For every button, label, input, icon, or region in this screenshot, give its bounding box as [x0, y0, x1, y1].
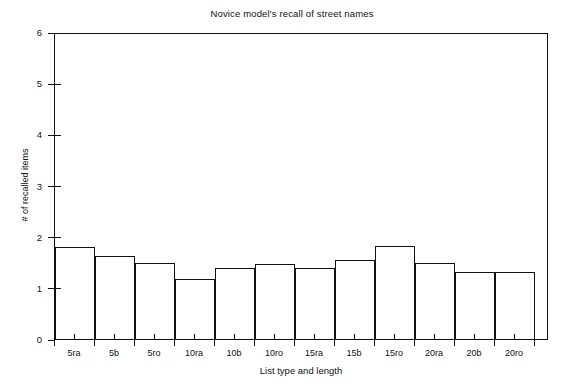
y-axis-tick-label: 0	[16, 334, 42, 345]
bar	[415, 263, 455, 339]
y-axis-tick-label: 5	[16, 78, 42, 89]
x-axis-tick-boundary	[414, 340, 415, 346]
x-axis-tick-boundary	[334, 340, 335, 346]
y-axis-tick-label: 3	[16, 181, 42, 192]
x-axis-tick-boundary	[54, 340, 55, 346]
x-axis-tick-boundary	[174, 340, 175, 346]
bar	[215, 268, 255, 339]
bar	[95, 256, 135, 339]
bars-layer	[55, 34, 547, 339]
bar	[255, 264, 295, 339]
x-axis-tick-boundary	[134, 340, 135, 346]
bar	[455, 272, 495, 339]
y-axis-tick-label: 2	[16, 232, 42, 243]
x-axis-tick-boundary	[374, 340, 375, 346]
x-axis-title: List type and length	[54, 365, 548, 376]
bar	[55, 247, 95, 339]
x-axis-tick-boundary	[294, 340, 295, 346]
chart-figure: Novice model's recall of street names # …	[0, 0, 584, 392]
chart-title: Novice model's recall of street names	[0, 8, 584, 19]
bar	[335, 260, 375, 339]
bar	[135, 263, 175, 339]
bar	[295, 268, 335, 339]
y-axis-tick-label: 6	[16, 27, 42, 38]
bar	[495, 272, 535, 339]
bar	[375, 246, 415, 339]
x-axis-tick-label: 20ro	[484, 348, 544, 358]
x-axis-tick-boundary	[254, 340, 255, 346]
bar	[175, 279, 215, 339]
x-axis-tick-boundary	[454, 340, 455, 346]
x-axis-tick-boundary	[214, 340, 215, 346]
x-axis-tick-boundary	[94, 340, 95, 346]
y-axis-tick-label: 1	[16, 283, 42, 294]
x-axis-tick-boundary	[534, 340, 535, 346]
y-axis-tick-label: 4	[16, 129, 42, 140]
plot-area	[54, 33, 548, 340]
x-axis-tick-boundary	[494, 340, 495, 346]
